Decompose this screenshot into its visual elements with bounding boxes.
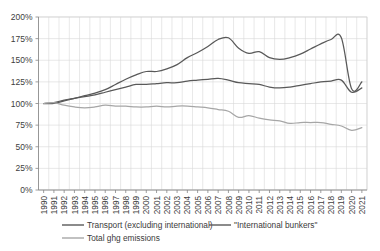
y-axis-tick-label: 125% xyxy=(11,77,33,87)
x-axis-tick-label: 2003 xyxy=(173,196,182,215)
x-axis-tick-label: 1994 xyxy=(81,196,90,215)
x-axis-tick-label: 2005 xyxy=(194,196,203,215)
x-axis-tick-label: 2008 xyxy=(225,196,234,215)
x-axis-tick-label: 1997 xyxy=(112,196,121,215)
x-axis-tick-label: 1995 xyxy=(91,196,100,215)
y-axis-tick-label: 50% xyxy=(15,142,32,152)
x-axis-tick-label: 2021 xyxy=(358,196,367,215)
x-axis-tick-label: 2006 xyxy=(204,196,213,215)
x-axis-tick-label: 1993 xyxy=(71,196,80,215)
x-axis-ticks: 1990199119921993199419951996199719981999… xyxy=(39,190,368,214)
x-axis-tick-label: 1990 xyxy=(40,196,49,215)
x-axis-tick-label: 2001 xyxy=(153,196,162,215)
x-axis-tick-label: 2007 xyxy=(214,196,223,215)
x-axis-tick-label: 2010 xyxy=(245,196,254,215)
x-axis-tick-label: 2013 xyxy=(276,196,285,215)
chart-legend: Transport (excluding international)"Inte… xyxy=(62,220,317,243)
y-axis-tick-label: 0% xyxy=(20,185,33,195)
y-axis-ticks: 0%25%50%75%100%125%150%175%200% xyxy=(11,12,39,195)
x-axis-tick-label: 1992 xyxy=(60,196,69,215)
y-axis-tick-label: 100% xyxy=(11,99,33,109)
x-axis-tick-label: 2014 xyxy=(286,196,295,215)
x-axis-tick-label: 2016 xyxy=(307,196,316,215)
x-axis-tick-label: 2011 xyxy=(255,196,264,214)
x-axis-tick-label: 2015 xyxy=(296,196,305,215)
y-axis-tick-label: 200% xyxy=(11,12,33,22)
chart-container: 0%25%50%75%100%125%150%175%200% 19901991… xyxy=(0,0,380,251)
x-axis-tick-label: 1999 xyxy=(132,196,141,215)
x-axis-tick-label: 2018 xyxy=(327,196,336,215)
x-axis-tick-label: 2020 xyxy=(348,196,357,215)
x-axis-tick-label: 1991 xyxy=(50,196,59,215)
x-axis-tick-label: 2002 xyxy=(163,196,172,215)
x-axis-tick-label: 2009 xyxy=(235,196,244,215)
gridlines-group xyxy=(39,17,368,190)
x-axis-tick-label: 1998 xyxy=(122,196,131,215)
line-chart: 0%25%50%75%100%125%150%175%200% 19901991… xyxy=(0,0,380,251)
x-axis-tick-label: 2019 xyxy=(337,196,346,215)
x-axis-tick-label: 2004 xyxy=(183,196,192,215)
y-axis-tick-label: 75% xyxy=(15,120,32,130)
legend-label-0: Transport (excluding international) xyxy=(87,220,213,230)
x-axis-tick-label: 2012 xyxy=(266,196,275,215)
x-axis-tick-label: 2017 xyxy=(317,196,326,215)
y-axis-tick-label: 25% xyxy=(15,163,32,173)
legend-label-2: Total ghg emissions xyxy=(87,233,160,243)
y-axis-tick-label: 175% xyxy=(11,34,33,44)
legend-label-1: "International bunkers" xyxy=(234,220,317,230)
y-axis-tick-label: 150% xyxy=(11,55,33,65)
x-axis-tick-label: 1996 xyxy=(101,196,110,215)
x-axis-tick-label: 2000 xyxy=(142,196,151,215)
